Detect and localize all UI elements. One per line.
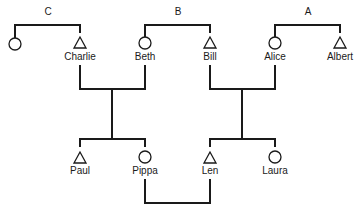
name-laura: Laura <box>262 165 288 177</box>
female-symbol-alice <box>269 37 281 49</box>
male-symbol-paul <box>74 152 86 163</box>
marriage-line-charlie-beth <box>80 66 145 89</box>
kinship-diagram <box>0 0 358 210</box>
group-label-b: B <box>175 6 182 18</box>
male-symbol-charlie <box>74 37 86 48</box>
group-c-bracket <box>15 25 80 37</box>
name-paul: Paul <box>70 165 90 177</box>
male-symbol-albert <box>334 37 346 48</box>
group-label-c: C <box>44 6 51 18</box>
female-symbol-unnamed <box>9 38 21 50</box>
name-charlie: Charlie <box>64 51 96 63</box>
marriage-line-bill-alice <box>210 66 275 89</box>
male-symbol-bill <box>204 37 216 48</box>
female-symbol-beth <box>139 37 151 49</box>
group-a-bracket <box>275 25 340 37</box>
male-symbol-len <box>204 152 216 163</box>
sibling-line-paul-pippa <box>80 139 145 146</box>
name-alice: Alice <box>264 51 286 63</box>
female-symbol-pippa <box>139 151 151 163</box>
name-len: Len <box>202 165 219 177</box>
name-pippa: Pippa <box>132 165 158 177</box>
name-bill: Bill <box>203 51 216 63</box>
sibling-line-len-laura <box>210 139 275 146</box>
name-beth: Beth <box>135 51 156 63</box>
group-label-a: A <box>305 6 312 18</box>
marriage-line-pippa-len <box>145 180 210 203</box>
name-albert: Albert <box>327 51 353 63</box>
female-symbol-laura <box>269 151 281 163</box>
group-b-bracket <box>145 25 210 37</box>
